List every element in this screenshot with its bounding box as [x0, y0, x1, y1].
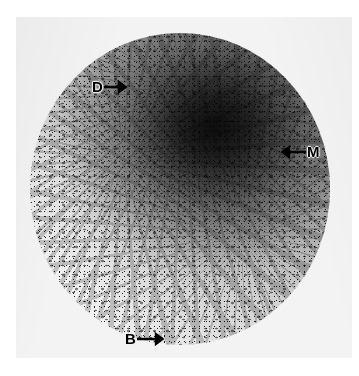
scintigram-photo-plate: D M B — [16, 17, 352, 358]
annotation-b-label: B — [125, 331, 136, 346]
grain-texture-coarse — [30, 33, 330, 345]
arrow-right-icon — [137, 333, 163, 345]
annotation-d: D — [92, 79, 126, 94]
annotation-b: B — [125, 331, 163, 346]
grain-texture-clump — [30, 33, 330, 345]
grain-texture-fine — [30, 33, 330, 345]
scintigram-circular-field — [30, 33, 330, 345]
arrow-right-icon — [104, 81, 126, 93]
grain-density-mask — [30, 33, 330, 345]
field-edge-feather — [30, 33, 330, 345]
annotation-m-label: M — [307, 144, 320, 159]
figure-root: D M B — [0, 0, 359, 376]
arrow-left-icon — [282, 146, 306, 158]
annotation-m: M — [282, 144, 320, 159]
annotation-d-label: D — [92, 79, 103, 94]
